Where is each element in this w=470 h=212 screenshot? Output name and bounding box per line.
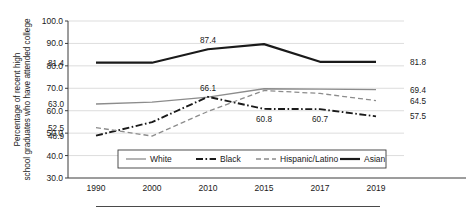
x-tick-label: 2000	[143, 183, 162, 193]
x-axis-ticks: 199020002010201520172019	[87, 183, 386, 193]
x-tick-label: 2017	[311, 183, 330, 193]
y-tick-label: 40.0	[46, 151, 63, 161]
data-point-label: 66.1	[200, 84, 216, 93]
legend-label-hispanic-latino: Hispanic/Latino	[280, 154, 338, 164]
y-tick-label: 70.0	[46, 83, 63, 93]
data-point-label: 63.0	[48, 100, 64, 109]
chart-container: 30.040.050.060.070.080.090.0100.0 63.066…	[0, 0, 470, 212]
x-tick-label: 2015	[255, 183, 274, 193]
data-point-label: 57.5	[410, 112, 426, 121]
y-axis-title: Percentage of recent highschool graduate…	[13, 18, 32, 180]
data-point-label: 87.4	[200, 36, 216, 45]
y-tick-label: 100.0	[42, 16, 64, 26]
line-chart: 30.040.050.060.070.080.090.0100.0 63.066…	[0, 0, 470, 212]
chart-legend: WhiteBlackHispanic/LatinoAsian	[118, 150, 386, 168]
data-point-label: 60.7	[312, 115, 328, 124]
series-line-white	[96, 89, 376, 104]
y-axis-title-line: Percentage of recent high	[13, 52, 22, 146]
y-tick-label: 90.0	[46, 38, 63, 48]
data-point-label: 52.5	[48, 124, 64, 133]
data-point-label: 48.9	[48, 132, 64, 141]
series-line-hispanic-latino	[96, 91, 376, 137]
data-point-label: 81.4	[48, 59, 64, 68]
data-point-label: 64.5	[410, 97, 426, 106]
data-point-label: 81.8	[410, 58, 426, 67]
x-tick-label: 2010	[199, 183, 218, 193]
series-line-asian	[96, 44, 376, 63]
x-tick-label: 1990	[87, 183, 106, 193]
series-lines	[96, 44, 376, 136]
y-axis-title-line: school graduates who have attended colle…	[23, 18, 32, 180]
data-point-label: 60.8	[256, 115, 272, 124]
gridlines	[68, 21, 404, 156]
data-point-label: 69.4	[410, 86, 426, 95]
legend-label-black: Black	[220, 154, 242, 164]
legend-label-asian: Asian	[364, 154, 386, 164]
x-tick-label: 2019	[367, 183, 386, 193]
y-tick-label: 30.0	[46, 173, 63, 183]
legend-label-white: White	[150, 154, 172, 164]
